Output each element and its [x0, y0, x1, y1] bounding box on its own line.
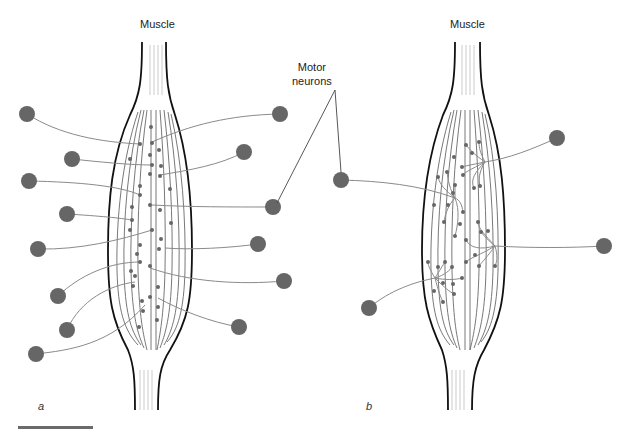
motor-neurons-callout-lines — [277, 90, 341, 203]
muscle-b — [422, 42, 505, 410]
endplates-a — [128, 125, 173, 329]
motor-neurons-b — [333, 130, 612, 316]
motor-neurons-a — [19, 106, 292, 362]
muscle-a — [108, 42, 192, 410]
axons-b — [341, 138, 604, 308]
motor-unit-diagram — [0, 0, 629, 432]
